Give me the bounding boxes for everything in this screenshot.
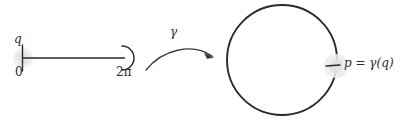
circle-shape (227, 5, 337, 115)
gamma-arrow (146, 49, 214, 70)
circle-outline (227, 5, 337, 115)
label-interval-right-endpoint: 2π (116, 66, 132, 78)
label-q: q (14, 33, 22, 45)
label-gamma-map: γ (170, 26, 177, 38)
math-diagram-figure: q 0 2π γ p = γ(q) (0, 0, 404, 124)
label-point-p: p = γ(q) (344, 57, 394, 69)
gamma-arrow-curve (146, 49, 212, 70)
label-interval-left-endpoint: 0 (15, 66, 23, 78)
